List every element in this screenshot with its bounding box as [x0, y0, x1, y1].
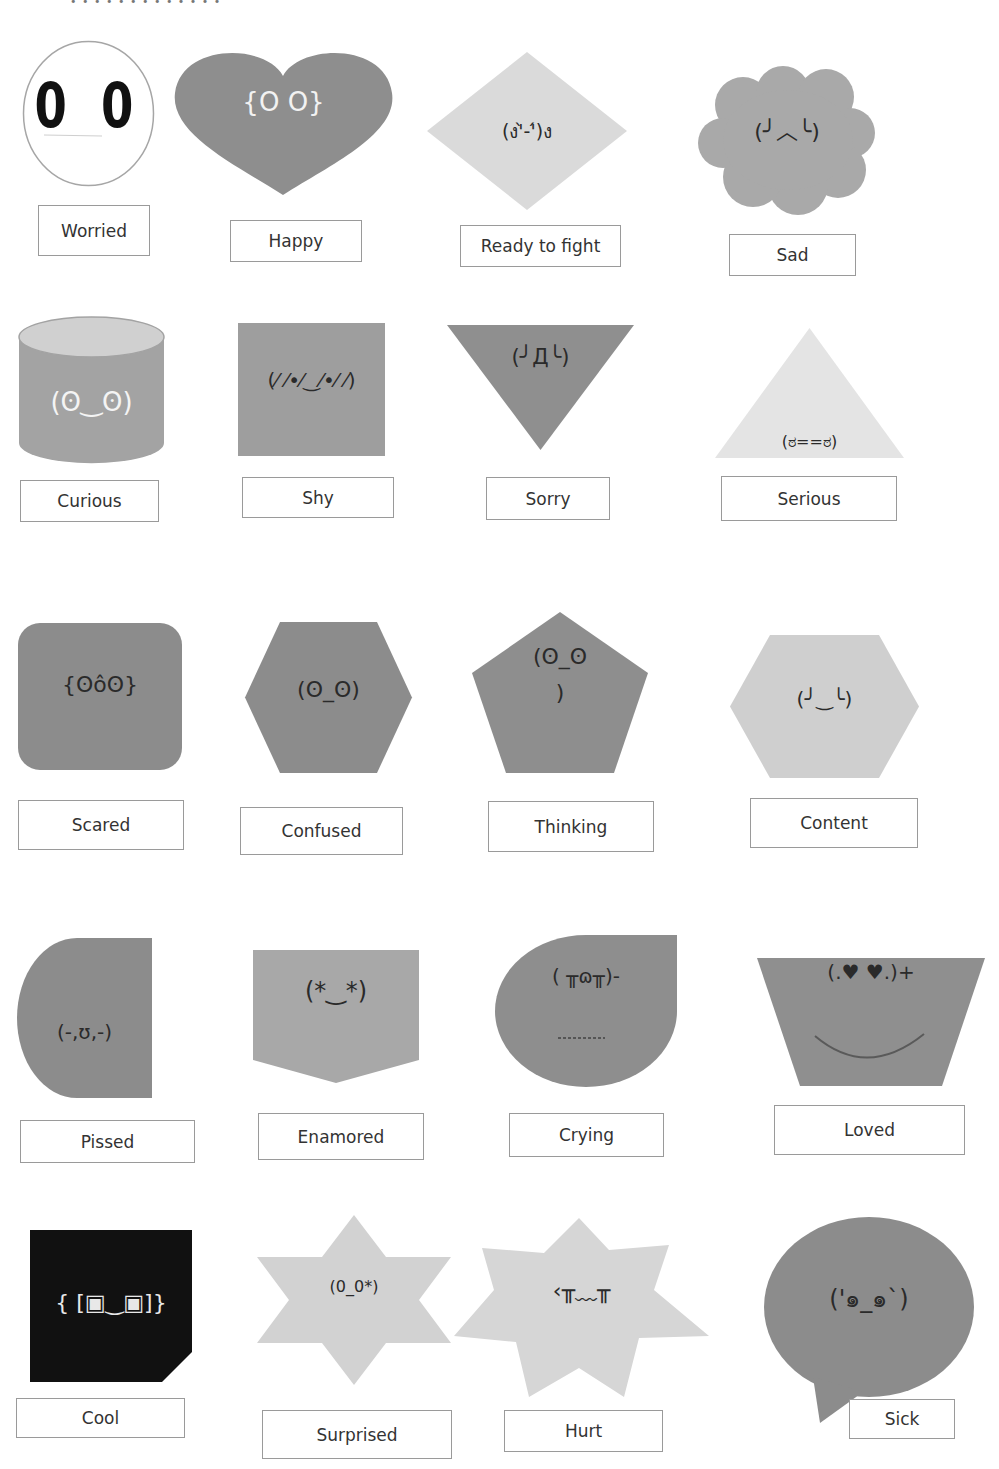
cool-snip-square-shape: { [▣‿▣]} [30, 1230, 192, 1382]
enamored-pentagon-pocket-shape: (*‿*) [253, 950, 419, 1083]
confused-hexagon-shape: (ʘ_ʘ) [245, 622, 412, 773]
confused-kaomoji: (ʘ_ʘ) [245, 614, 412, 765]
loved-trapezoid-shape: (.♥ ♥.)+ [757, 958, 985, 1086]
sorry-kaomoji: (╯Д╰) [447, 325, 634, 450]
label-pissed: Pissed [20, 1120, 195, 1163]
label-confused: Confused [240, 807, 403, 855]
crying-teardrop-shape: ( ╥ɷ╥)- [495, 935, 677, 1088]
label-shy: Shy [242, 477, 394, 518]
ready-to-fight-diamond-shape: (ง'̀-'́)ง [427, 52, 627, 210]
label-scared: Scared [18, 800, 184, 850]
label-enamored: Enamored [258, 1113, 424, 1160]
surprised-six-point-star-shape: (0_0*) [257, 1215, 451, 1385]
worried-kaomoji: 0 0 [39, 32, 139, 179]
serious-triangle-shape: (ಠ==ಠ) [715, 328, 904, 458]
curious-kaomoji: (ʘ‿ʘ) [18, 327, 165, 477]
label-sick: Sick [849, 1399, 955, 1439]
curious-cylinder-shape: (ʘ‿ʘ) [18, 315, 165, 465]
hurt-kaomoji: ‹╥﹏╥ [454, 1198, 709, 1377]
label-surprised: Surprised [262, 1410, 452, 1459]
pissed-kaomoji: (-,ʊ,-) [17, 952, 152, 1112]
content-hexagon-shape: (╯‿╰) [730, 635, 919, 778]
shy-square-shape: (⁄ ⁄•⁄‿⁄•⁄ ⁄) [238, 323, 385, 456]
label-ready-to-fight: Ready to fight [460, 225, 621, 267]
label-hurt: Hurt [504, 1410, 663, 1452]
happy-heart-shape: {O O} [172, 48, 395, 195]
label-curious: Curious [20, 480, 159, 522]
happy-kaomoji: {O O} [172, 28, 395, 175]
label-loved: Loved [774, 1105, 965, 1155]
label-sorry: Sorry [486, 477, 610, 520]
thinking-kaomoji: (ʘ_ʘ ) [472, 594, 648, 755]
enamored-kaomoji: (*‿*) [253, 924, 419, 1057]
hurt-seven-point-star-shape: ‹╥﹏╥ [454, 1218, 709, 1397]
label-cool: Cool [16, 1398, 185, 1438]
surprised-kaomoji: (0_0*) [257, 1201, 451, 1371]
worried-circle-shape: 0 0 [22, 40, 155, 187]
ready-to-fight-kaomoji: (ง'̀-'́)ง [427, 52, 627, 210]
label-happy: Happy [230, 220, 362, 262]
crying-kaomoji: ( ╥ɷ╥)- [495, 899, 677, 1052]
pissed-half-circle-shape: (-,ʊ,-) [17, 938, 152, 1098]
cut-off-header-text: • • • • • • • • • • • • • [70, 0, 830, 6]
sick-speech-bubble-shape: ('๑_๑`) [763, 1217, 975, 1423]
sick-kaomoji: ('๑_๑`) [763, 1195, 975, 1401]
scared-kaomoji: {ʘôʘ} [18, 611, 182, 758]
scared-rounded-square-shape: {ʘôʘ} [18, 623, 182, 770]
content-kaomoji: (╯‿╰) [730, 627, 919, 770]
label-thinking: Thinking [488, 801, 654, 852]
label-serious: Serious [721, 476, 897, 521]
cool-kaomoji: { [▣‿▣]} [30, 1226, 192, 1378]
sorry-inverted-triangle-shape: (╯Д╰) [447, 325, 634, 450]
label-worried: Worried [38, 205, 150, 256]
sad-kaomoji: (╯︿╰) [698, 53, 876, 204]
thinking-pentagon-shape: (ʘ_ʘ ) [472, 612, 648, 773]
label-content: Content [750, 798, 918, 848]
label-crying: Crying [509, 1113, 664, 1157]
loved-kaomoji: (.♥ ♥.)+ [757, 908, 985, 1036]
sad-cloud-shape: (╯︿╰) [698, 65, 876, 216]
shy-kaomoji: (⁄ ⁄•⁄‿⁄•⁄ ⁄) [238, 313, 385, 446]
label-sad: Sad [729, 234, 856, 276]
